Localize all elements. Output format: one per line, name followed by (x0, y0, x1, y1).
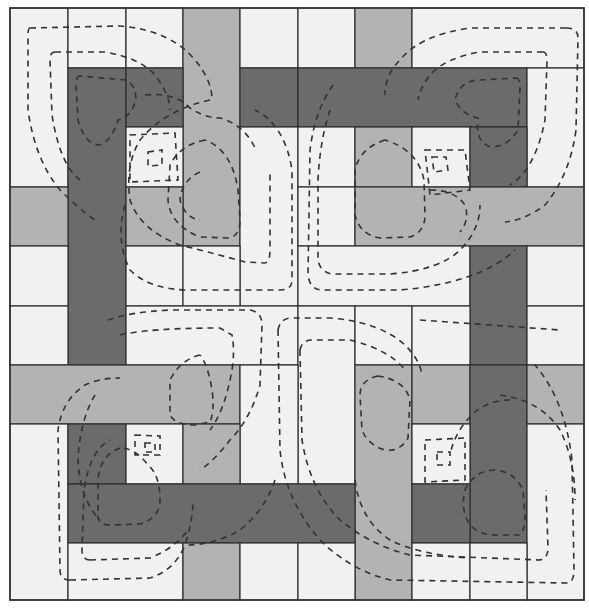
quilt-patch-white (10, 306, 68, 365)
quilt-patch-white (126, 246, 183, 306)
quilt-patch-white (527, 424, 584, 600)
quilt-patch-light (183, 8, 240, 246)
quilt-patch-white (298, 306, 355, 484)
quilt-patch-white (412, 424, 470, 484)
quilt-patch-dark (412, 484, 470, 543)
quilt-patch-white (240, 543, 298, 600)
quilt-patch-white (412, 8, 584, 68)
quilt-patch-light (183, 543, 240, 600)
quilt-patches (10, 8, 584, 600)
quilt-patch-white (10, 424, 68, 600)
quilt-patch-white (527, 246, 584, 306)
quilt-patch-light (126, 187, 183, 246)
quilt-patch-white (183, 246, 240, 306)
quilt-patch-light (412, 365, 470, 424)
quilt-patch-white (10, 246, 68, 306)
quilt-patch-white (298, 8, 355, 68)
quilt-patch-white (298, 127, 355, 187)
quilt-patch-light (355, 127, 412, 187)
quilt-patch-white (240, 8, 298, 68)
quilt-patch-white (10, 8, 68, 187)
quilt-patch-dark (470, 246, 527, 365)
quilt-patch-white (527, 306, 584, 365)
quilt-patch-white (126, 306, 298, 365)
quilt-patch-dark (240, 68, 298, 127)
quilt-patch-dark (470, 365, 527, 543)
quilt-patch-white (470, 543, 527, 600)
quilt-patch-light (10, 187, 68, 246)
quilt-patch-dark (68, 424, 126, 484)
quilt-patch-white (527, 68, 584, 187)
quilt-patch-white (68, 543, 183, 600)
quilt-patch-light (10, 365, 240, 424)
quilt-patch-light (183, 424, 240, 484)
quilt-patch-white (298, 543, 355, 600)
quilt-diagram (0, 0, 589, 614)
quilt-patch-white (240, 365, 298, 484)
quilt-patch-white (68, 8, 126, 68)
quilt-patch-dark (298, 68, 527, 127)
quilt-patch-white (412, 127, 470, 187)
quilt-patch-white (298, 246, 470, 306)
quilt-patch-white (355, 306, 412, 365)
quilt-patch-dark (68, 484, 355, 543)
quilt-patch-light (527, 365, 584, 424)
quilt-patch-light (355, 365, 412, 600)
quilt-patch-white (126, 8, 183, 68)
quilt-patch-dark (126, 68, 183, 127)
quilt-patch-white (298, 187, 355, 246)
quilt-patch-dark (68, 68, 126, 365)
quilt-patch-white (412, 306, 470, 365)
quilt-patch-light (355, 8, 412, 68)
